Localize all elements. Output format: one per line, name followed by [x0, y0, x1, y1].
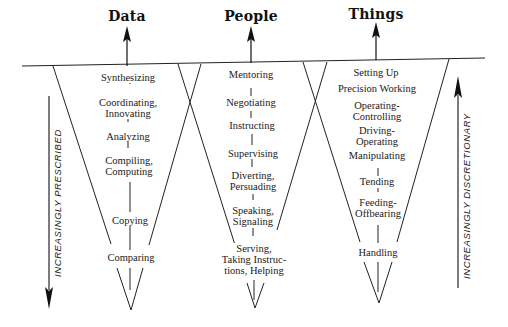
data-item: Copying: [111, 215, 149, 226]
things-item: Tending: [359, 176, 395, 187]
prescribed-axis-label: INCREASINGLY PRESCRIBED: [52, 129, 63, 277]
things-item: Handling: [357, 247, 398, 258]
data-item: Analyzing: [105, 131, 151, 142]
worker-functions-diagram: Data People Things Synthesizing Coordina…: [0, 0, 508, 327]
discretionary-axis-label: INCREASINGLY DISCRETIONARY: [461, 113, 472, 279]
data-item: Comparing: [106, 252, 155, 263]
things-item: Precision Working: [337, 83, 417, 94]
people-item: Diverting, Persuading: [229, 170, 278, 192]
things-item: Driving- Operating: [355, 125, 399, 147]
data-item: Synthesizing: [100, 72, 156, 83]
diagram-lines: [0, 0, 508, 327]
data-item: Compiling, Computing: [104, 155, 154, 177]
people-item: Mentoring: [228, 69, 274, 80]
people-item: Speaking, Signaling: [231, 205, 275, 227]
things-up-arrow: [372, 22, 380, 60]
things-item: Manipulating: [348, 150, 407, 161]
people-column-title: People: [224, 8, 278, 24]
people-item: Instructing: [228, 120, 276, 131]
people-item: Negotiating: [225, 97, 277, 108]
data-up-arrow: [123, 26, 131, 66]
things-item: Setting Up: [352, 67, 399, 78]
things-column-title: Things: [349, 6, 404, 22]
data-column-title: Data: [108, 8, 146, 24]
data-item: Coordinating, Innovating: [98, 97, 158, 119]
things-item: Feeding- Offbearing: [354, 197, 402, 219]
things-item: Operating- Controlling: [352, 100, 402, 122]
people-item: Serving, Taking Instruc- tions, Helping: [221, 243, 287, 276]
people-up-arrow: [247, 26, 255, 63]
top-baseline: [22, 58, 485, 66]
people-item: Supervising: [227, 148, 279, 159]
